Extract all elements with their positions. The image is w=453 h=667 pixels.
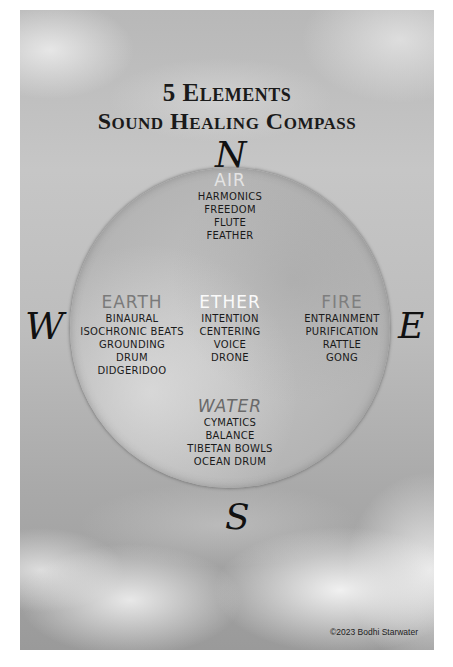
compass-south-label: S xyxy=(225,497,250,537)
poster: 5 Elements Sound Healing Compass N W E S… xyxy=(20,10,434,650)
element-ether-item: INTENTION xyxy=(170,312,290,325)
element-water-heading: WATER xyxy=(165,396,295,416)
element-air-heading: AIR xyxy=(170,170,290,190)
element-air-item: FREEDOM xyxy=(170,203,290,216)
element-fire-item: RATTLE xyxy=(282,338,402,351)
element-ether-item: DRONE xyxy=(170,351,290,364)
poster-title-line2: Sound Healing Compass xyxy=(20,107,434,135)
element-ether-item: VOICE xyxy=(170,338,290,351)
element-air-item: HARMONICS xyxy=(170,190,290,203)
element-fire-heading: FIRE xyxy=(282,292,402,312)
element-ether: ETHER INTENTION CENTERING VOICE DRONE xyxy=(170,292,290,364)
element-fire: FIRE ENTRAINMENT PURIFICATION RATTLE GON… xyxy=(282,292,402,364)
copyright-notice: ©2023 Bodhi Starwater xyxy=(330,627,418,637)
element-water: WATER CYMATICS BALANCE TIBETAN BOWLS OCE… xyxy=(165,396,295,468)
element-air-item: FLUTE xyxy=(170,216,290,229)
element-earth-item: DIDGERIDOO xyxy=(72,364,192,377)
compass-west-label: W xyxy=(25,306,64,346)
element-ether-item: CENTERING xyxy=(170,325,290,338)
element-water-item: TIBETAN BOWLS xyxy=(165,442,295,455)
element-air-item: FEATHER xyxy=(170,229,290,242)
poster-title-line1: 5 Elements xyxy=(20,79,434,107)
element-water-item: CYMATICS xyxy=(165,416,295,429)
element-ether-heading: ETHER xyxy=(170,292,290,312)
element-fire-item: GONG xyxy=(282,351,402,364)
element-fire-item: PURIFICATION xyxy=(282,325,402,338)
element-air: AIR HARMONICS FREEDOM FLUTE FEATHER xyxy=(170,170,290,242)
element-water-item: OCEAN DRUM xyxy=(165,455,295,468)
element-fire-item: ENTRAINMENT xyxy=(282,312,402,325)
element-water-item: BALANCE xyxy=(165,429,295,442)
